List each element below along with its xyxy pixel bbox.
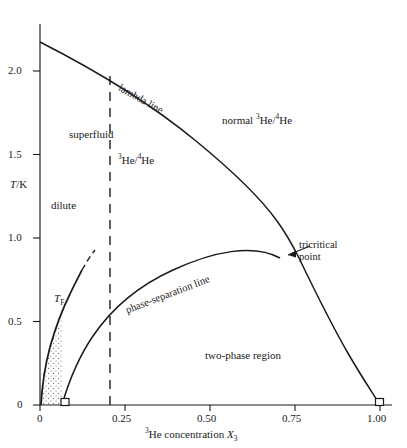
x-axis-ticks — [40, 405, 380, 411]
phase-separation-curve — [62, 250, 280, 405]
y-axis-title: T/K — [10, 178, 27, 190]
he-text-mix-1: He — [122, 154, 135, 166]
x-axis-title-text: He concentration — [149, 428, 227, 440]
superfluid-label: superfluid — [69, 128, 114, 140]
x-tick-label-1_00: 1.00 — [367, 412, 386, 424]
x-axis-title: 3He concentration X3 — [145, 426, 237, 443]
fermi-temperature-label: TF — [54, 292, 64, 307]
x-tick-label-0_50: 0.50 — [197, 412, 216, 424]
stipple-region — [36, 310, 82, 408]
tricritical-point-label: tricritical point — [299, 239, 337, 263]
x-axis-title-sub: 3 — [234, 434, 238, 443]
normal-phase-label: normal 3He/4He — [222, 112, 292, 126]
x-tick-label-0_75: 0.75 — [282, 412, 301, 424]
two-phase-region-label: two-phase region — [205, 349, 281, 361]
he-text-mix-2: He — [141, 154, 154, 166]
y-axis-ticks — [33, 71, 40, 405]
dilute-label: dilute — [51, 199, 76, 211]
fermi-temperature-subscript: F — [60, 298, 64, 307]
x-tick-label-0: 0 — [37, 412, 43, 424]
y-axis-title-units: /K — [16, 178, 27, 190]
y-tick-label-2_0: 2.0 — [8, 64, 22, 76]
x-axis-title-var: X — [227, 428, 234, 440]
he-text-normal-1: He — [260, 114, 273, 126]
x-tick-label-0_25: 0.25 — [112, 412, 131, 424]
normal-prefix-text: normal — [222, 114, 256, 126]
y-tick-label-1_0: 1.0 — [8, 231, 22, 243]
tricritical-line-1: tricritical — [299, 239, 337, 251]
y-tick-label-0: 0 — [17, 398, 23, 410]
tricritical-line-2: point — [299, 251, 337, 263]
he-text-normal-2: He — [279, 114, 292, 126]
superfluid-mixture-label: 3He/4He — [118, 152, 154, 166]
phase-diagram-svg — [0, 0, 407, 448]
fermi-temperature-dashed — [82, 250, 95, 270]
y-tick-label-1_5: 1.5 — [8, 148, 22, 160]
axis-lines — [40, 24, 392, 405]
phase-diagram-figure: 0 0.5 1.0 1.5 2.0 0 0.25 0.50 0.75 1.00 … — [0, 0, 407, 448]
y-tick-label-0_5: 0.5 — [8, 315, 22, 327]
